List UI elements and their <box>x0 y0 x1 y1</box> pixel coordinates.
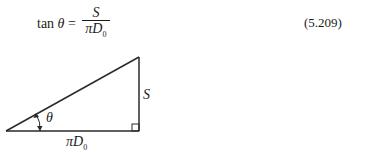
angle-arrowheads <box>34 113 43 131</box>
vertical-side-label: S <box>143 87 150 103</box>
pi-symbol: π <box>66 134 73 149</box>
hypotenuse <box>6 57 139 131</box>
right-triangle-diagram <box>0 0 366 152</box>
angle-label: θ <box>46 110 53 126</box>
horizontal-side-label: πD0 <box>66 134 87 152</box>
right-angle-marker <box>132 124 139 131</box>
subscript-zero: 0 <box>83 143 87 152</box>
d-variable: D <box>73 134 83 149</box>
